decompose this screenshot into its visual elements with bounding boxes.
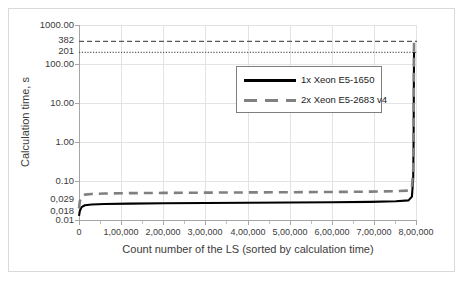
x-tick-mark bbox=[290, 221, 291, 225]
x-tick-label: 0 bbox=[76, 227, 81, 237]
x-tick-mark bbox=[205, 221, 206, 225]
x-tick-mark-minor bbox=[142, 221, 143, 224]
x-tick-mark bbox=[332, 221, 333, 225]
y-tick-mark bbox=[75, 142, 79, 143]
x-tick-mark bbox=[121, 221, 122, 225]
x-tick-label: 4,00,000 bbox=[230, 227, 265, 237]
gridline-vertical bbox=[163, 25, 164, 221]
x-tick-mark-minor bbox=[353, 221, 354, 224]
gridline-vertical bbox=[332, 25, 333, 221]
x-tick-label: 8,00,000 bbox=[398, 227, 433, 237]
gridline-vertical bbox=[205, 25, 206, 221]
y-axis-tick-labels: 1000.00 382 201 100.00 10.00 1.00 0.10 0… bbox=[0, 0, 74, 287]
y-axis-title: Calculation time, s bbox=[19, 52, 31, 192]
y-axis-line bbox=[79, 25, 80, 221]
y-tick-label: 201 bbox=[0, 46, 74, 56]
gridline-horizontal bbox=[79, 25, 417, 26]
x-tick-label: 1,00,000 bbox=[103, 227, 138, 237]
y-tick-label: 1000.00 bbox=[0, 20, 74, 30]
x-tick-mark-minor bbox=[311, 221, 312, 224]
y-tick-label: 0.10 bbox=[0, 176, 74, 186]
gridline-vertical bbox=[374, 25, 375, 221]
x-tick-mark-minor bbox=[269, 221, 270, 224]
x-tick-mark-minor bbox=[226, 221, 227, 224]
y-tick-label: 0,029 bbox=[0, 194, 74, 204]
legend-swatch-series1 bbox=[244, 79, 296, 82]
y-tick-mark bbox=[75, 25, 79, 26]
x-axis-title: Count number of the LS (sorted by calcul… bbox=[79, 243, 417, 255]
legend-label: 2x Xeon E5-2683 v4 bbox=[301, 94, 387, 105]
x-tick-mark bbox=[248, 221, 249, 225]
x-tick-mark-minor bbox=[395, 221, 396, 224]
x-tick-label: 5,00,000 bbox=[272, 227, 307, 237]
x-tick-mark-minor bbox=[100, 221, 101, 224]
legend-label: 1x Xeon E5-1650 bbox=[301, 74, 374, 85]
y-tick-label: 382 bbox=[0, 35, 74, 45]
x-tick-mark bbox=[163, 221, 164, 225]
x-tick-mark bbox=[416, 221, 417, 225]
y-tick-label: 100.00 bbox=[0, 59, 74, 69]
gridline-horizontal bbox=[79, 181, 417, 182]
y-tick-label: 0.01 bbox=[0, 215, 74, 225]
legend-item: 2x Xeon E5-2683 v4 bbox=[237, 92, 383, 108]
y-tick-mark bbox=[75, 64, 79, 65]
y-tick-label: 10.00 bbox=[0, 98, 74, 108]
gridline-vertical bbox=[416, 25, 417, 221]
gridline-horizontal bbox=[79, 142, 417, 143]
x-tick-label: 6,00,000 bbox=[314, 227, 349, 237]
x-tick-label: 7,00,000 bbox=[356, 227, 391, 237]
gridline-horizontal bbox=[79, 64, 417, 65]
gridline-vertical bbox=[290, 25, 291, 221]
x-tick-label: 2,00,000 bbox=[145, 227, 180, 237]
y-tick-mark bbox=[75, 103, 79, 104]
x-tick-mark bbox=[79, 221, 80, 225]
chart-figure: 1000.00 382 201 100.00 10.00 1.00 0.10 0… bbox=[0, 0, 464, 287]
x-tick-mark-minor bbox=[184, 221, 185, 224]
y-tick-label: 1.00 bbox=[0, 137, 74, 147]
x-tick-label: 3,00,000 bbox=[187, 227, 222, 237]
legend-item: 1x Xeon E5-1650 bbox=[237, 72, 383, 88]
y-tick-mark bbox=[75, 181, 79, 182]
chart-legend: 1x Xeon E5-1650 2x Xeon E5-2683 v4 bbox=[236, 66, 382, 113]
gridline-vertical bbox=[121, 25, 122, 221]
gridline-vertical bbox=[248, 25, 249, 221]
legend-swatch-series2 bbox=[244, 99, 296, 102]
x-tick-mark bbox=[374, 221, 375, 225]
